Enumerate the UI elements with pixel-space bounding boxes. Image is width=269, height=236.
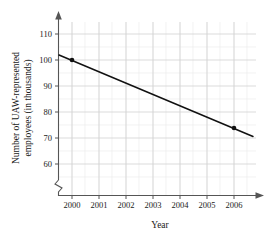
y-tick-label-70: 70 — [44, 133, 53, 143]
y-tick-labels: 110 100 90 80 70 60 — [39, 29, 52, 169]
x-tick-label-2004: 2004 — [172, 200, 190, 210]
y-axis-title-line2: employees (in thousands) — [23, 59, 34, 156]
x-axis-title: Year — [151, 220, 169, 230]
y-tick-label-90: 90 — [44, 81, 53, 91]
x-axis-title-text: Year — [151, 220, 169, 230]
x-tick-label-2005: 2005 — [199, 200, 216, 210]
major-gridlines — [59, 22, 256, 195]
x-tick-label-2000: 2000 — [64, 200, 81, 210]
data-series-line — [59, 55, 253, 137]
data-point-2000 — [70, 58, 75, 63]
x-tick-label-2003: 2003 — [145, 200, 162, 210]
y-tick-label-80: 80 — [44, 107, 53, 117]
y-tick-label-60: 60 — [44, 159, 53, 169]
minor-gridlines — [59, 22, 256, 195]
chart-container: 110 100 90 80 70 60 2000 2001 2002 2003 … — [0, 0, 269, 236]
data-point-2006 — [232, 126, 237, 131]
y-tick-label-110: 110 — [40, 29, 52, 39]
y-tick-label-100: 100 — [39, 55, 52, 65]
y-axis-title-line1: Number of UAW-represented — [11, 52, 21, 164]
x-axis — [59, 192, 265, 199]
x-tick-label-2006: 2006 — [226, 200, 243, 210]
x-tick-label-2002: 2002 — [118, 200, 135, 210]
y-axis — [55, 11, 62, 196]
x-tick-labels: 2000 2001 2002 2003 2004 2005 2006 — [64, 200, 243, 210]
x-tick-label-2001: 2001 — [91, 200, 108, 210]
y-axis-title: Number of UAW-represented employees (in … — [11, 52, 34, 164]
line-chart: 110 100 90 80 70 60 2000 2001 2002 2003 … — [0, 0, 269, 236]
